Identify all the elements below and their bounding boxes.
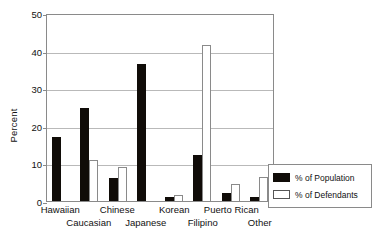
bar (52, 137, 61, 201)
plot-area: 01020304050 (46, 14, 274, 202)
bar (109, 178, 118, 201)
legend-label: % of Population (295, 173, 355, 183)
y-axis-tick-label: 10 (31, 161, 42, 171)
bar (259, 177, 268, 201)
legend-item: % of Defendants (273, 186, 367, 203)
legend-swatch (273, 190, 290, 199)
bar-group (104, 15, 132, 201)
bar-group (132, 15, 160, 201)
x-axis-label: Filipino (188, 217, 218, 228)
bar-group (217, 15, 245, 201)
bar (250, 197, 259, 201)
bar (165, 197, 174, 201)
bar (137, 64, 146, 201)
bar (193, 155, 202, 201)
y-axis-tick-label: 30 (31, 85, 42, 95)
bar-group (188, 15, 216, 201)
x-axis-label: Japanese (125, 217, 166, 228)
chart-title (46, 0, 306, 1)
bar (202, 45, 211, 201)
bar (118, 167, 127, 201)
bar-group (160, 15, 188, 201)
chart-legend: % of Population% of Defendants (268, 164, 372, 208)
y-axis-title: Percent (8, 91, 19, 161)
bar (231, 184, 240, 201)
x-axis-label: Chinese (100, 204, 135, 215)
legend-item: % of Population (273, 169, 367, 186)
x-axis-label: Hawaiian (41, 204, 80, 215)
bar (174, 195, 183, 201)
bar-group (75, 15, 103, 201)
x-axis-label: Other (248, 217, 272, 228)
x-axis-labels: HawaiianCaucasianChineseJapaneseKoreanFi… (46, 204, 274, 238)
legend-swatch (273, 173, 290, 182)
x-axis-label: Puerto Rican (204, 204, 259, 215)
y-axis-tick-label: 20 (31, 123, 42, 133)
legend-label: % of Defendants (295, 190, 358, 200)
y-axis-tick-label: 50 (31, 10, 42, 20)
bar (222, 193, 231, 201)
y-axis-tick-label: 40 (31, 48, 42, 58)
x-axis-label: Korean (159, 204, 190, 215)
x-axis-label: Caucasian (66, 217, 111, 228)
bar-series-container (47, 15, 273, 201)
bar-group (47, 15, 75, 201)
bar (80, 108, 89, 201)
bar (89, 160, 98, 201)
bar-chart: Percent 01020304050 HawaiianCaucasianChi… (0, 0, 373, 239)
